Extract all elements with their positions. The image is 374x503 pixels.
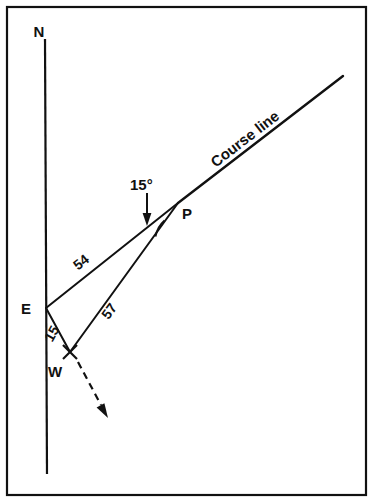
figure-background xyxy=(0,0,374,503)
course-line-diagram: N E W P Course line 15° 54 57 15 xyxy=(0,0,374,503)
figure-root: N E W P Course line 15° 54 57 15 xyxy=(0,0,374,503)
label-angle-15-degrees: 15° xyxy=(130,176,153,193)
label-west: W xyxy=(48,363,63,380)
label-point-p: P xyxy=(182,205,192,222)
label-east: E xyxy=(21,300,31,317)
label-north: N xyxy=(34,23,45,40)
